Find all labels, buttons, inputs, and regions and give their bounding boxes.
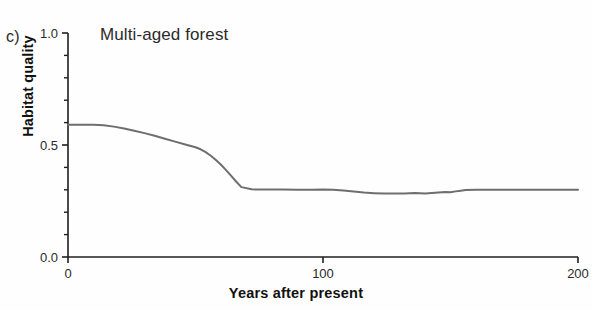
x-tick-label: 0 (64, 266, 71, 281)
ticks-layer (62, 33, 578, 263)
figure-panel: c) Habitat quality Multi-aged forest 0.0… (0, 0, 592, 310)
data-line (68, 125, 578, 194)
y-tick-label: 0.5 (40, 138, 58, 153)
data-series-layer (68, 125, 578, 194)
axes-layer (68, 33, 578, 257)
line-chart: 0.00.51.00100200 (0, 0, 592, 310)
y-tick-label: 1.0 (40, 26, 58, 41)
tick-labels-layer: 0.00.51.00100200 (40, 26, 589, 282)
y-tick-label: 0.0 (40, 250, 58, 265)
x-tick-label: 100 (312, 266, 334, 281)
x-axis-title: Years after present (0, 285, 592, 301)
x-tick-label: 200 (567, 266, 589, 281)
